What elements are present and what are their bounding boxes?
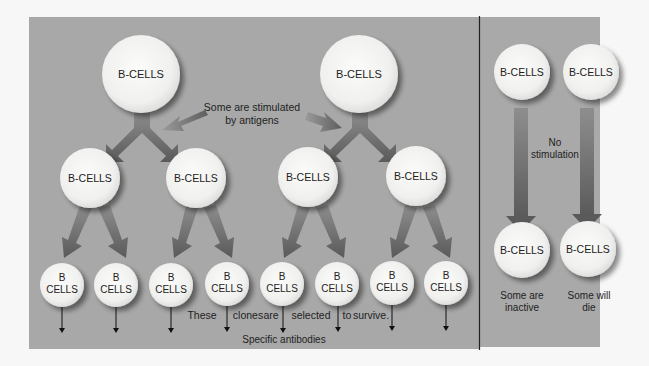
cell-label: B-CELLS	[566, 243, 610, 255]
cell-label-line2: CELLS	[266, 283, 298, 294]
caption-die-line1: Some will	[568, 290, 611, 301]
cell-label-line1: B	[334, 271, 341, 282]
cell-label: B-CELLS	[118, 68, 164, 80]
cell-label: B-CELLS	[336, 68, 382, 80]
antibodies-caption: Specific antibodies	[242, 334, 325, 345]
bottom-cell-2: B CELLS	[94, 263, 138, 307]
right-bottom-cell-inactive: B-CELLS	[494, 222, 550, 278]
middle-cell-1: B-CELLS	[60, 148, 120, 208]
cell-label: B-CELLS	[68, 172, 112, 184]
right-top-cell-2: B-CELLS	[563, 44, 619, 100]
cell-label: B-CELLS	[174, 172, 218, 184]
annotation-no-stim-line1: No	[549, 137, 562, 148]
bottom-cell-4: B CELLS	[205, 262, 249, 306]
cell-label-line1: B	[168, 272, 175, 283]
cell-label-line1: B	[59, 272, 66, 283]
caption-word: to	[343, 309, 352, 321]
clonal-selection-diagram: B-CELLS B-CELLS Some are stimulated by a…	[0, 0, 649, 366]
middle-cell-4: B-CELLS	[386, 146, 446, 206]
caption-word: are	[263, 309, 278, 321]
cell-label: B-CELLS	[500, 66, 544, 78]
bottom-cell-1: B CELLS	[40, 263, 84, 307]
cell-label-line2: CELLS	[46, 284, 78, 295]
annotation-no-stim-line2: stimulation	[531, 149, 579, 160]
caption-word: These	[187, 309, 216, 321]
cell-label: B-CELLS	[500, 244, 544, 256]
cell-label-line2: CELLS	[321, 283, 353, 294]
cell-label: B-CELLS	[286, 171, 330, 183]
cell-label-line2: CELLS	[100, 284, 132, 295]
cell-label-line2: CELLS	[211, 283, 243, 294]
bottom-cell-6: B CELLS	[315, 262, 359, 306]
middle-cell-3: B-CELLS	[278, 147, 338, 207]
caption-word: survive.	[353, 309, 389, 321]
bottom-cell-3: B CELLS	[149, 263, 193, 307]
cell-label: B-CELLS	[394, 170, 438, 182]
cell-label-line2: CELLS	[155, 284, 187, 295]
cell-label-line1: B	[389, 270, 396, 281]
cell-label: B-CELLS	[569, 66, 613, 78]
annotation-stimulated-line2: by antigens	[225, 114, 279, 126]
caption-word: clones	[233, 309, 263, 321]
cell-label-line1: B	[279, 271, 286, 282]
caption-word: selected	[291, 309, 330, 321]
top-cell-left: B-CELLS	[102, 35, 180, 113]
annotation-stimulated-line1: Some are stimulated	[204, 101, 300, 113]
bottom-cell-8: B CELLS	[424, 261, 468, 305]
cell-label-line1: B	[443, 270, 450, 281]
bottom-cell-5: B CELLS	[260, 262, 304, 306]
caption-inactive-line1: Some are	[500, 290, 544, 301]
right-top-cell-1: B-CELLS	[494, 44, 550, 100]
cell-label-line1: B	[224, 271, 231, 282]
bottom-cell-7: B CELLS	[370, 261, 414, 305]
caption-die-line2: die	[582, 302, 596, 313]
cell-label-line2: CELLS	[430, 282, 462, 293]
middle-cell-2: B-CELLS	[166, 148, 226, 208]
right-bottom-cell-die: B-CELLS	[560, 221, 616, 277]
caption-inactive-line2: inactive	[505, 302, 539, 313]
cell-label-line2: CELLS	[376, 282, 408, 293]
cell-label-line1: B	[113, 272, 120, 283]
top-cell-right: B-CELLS	[320, 35, 398, 113]
